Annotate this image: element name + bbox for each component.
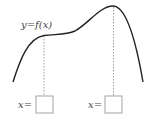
answer-box-right[interactable]	[105, 96, 122, 113]
x-label-right: x=	[88, 99, 102, 110]
x-label-left: x=	[18, 99, 32, 110]
function-graph: y=f(x) x= x=	[0, 0, 154, 118]
curve-y-f-x	[13, 6, 143, 82]
answer-box-left[interactable]	[36, 96, 53, 113]
curve-label: y=f(x)	[20, 19, 52, 30]
